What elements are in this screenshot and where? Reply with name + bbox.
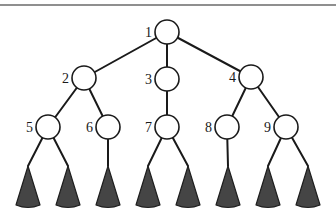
tree-diagram: 123456789	[0, 0, 336, 221]
node-circle	[155, 67, 179, 91]
edges	[28, 32, 308, 166]
node-label: 3	[145, 72, 152, 87]
tree-node-7: 7	[145, 115, 179, 139]
node-circle	[155, 115, 179, 139]
edge-1-2	[84, 32, 167, 78]
node-label: 2	[62, 71, 69, 86]
node-circle	[36, 115, 60, 139]
subtree-triangle	[96, 166, 120, 208]
subtree-triangle	[256, 166, 280, 208]
subtree-triangle	[56, 166, 80, 208]
tree-node-3: 3	[145, 67, 179, 91]
tree-node-9: 9	[264, 115, 298, 139]
node-label: 8	[205, 120, 212, 135]
node-circle	[72, 66, 96, 90]
node-circle	[215, 115, 239, 139]
node-label: 4	[229, 70, 236, 85]
subtree-triangle	[296, 166, 320, 208]
tree-node-8: 8	[205, 115, 239, 139]
subtree-triangle	[216, 166, 240, 208]
edge-1-4	[167, 32, 251, 77]
node-circle	[96, 115, 120, 139]
tree-node-5: 5	[26, 115, 60, 139]
node-circle	[274, 115, 298, 139]
subtree-triangle	[16, 166, 40, 208]
subtree-triangle	[136, 166, 160, 208]
node-label: 1	[145, 25, 152, 40]
node-label: 9	[264, 120, 271, 135]
nodes: 123456789	[26, 20, 298, 139]
node-circle	[239, 65, 263, 89]
subtree-triangle	[176, 166, 200, 208]
node-label: 6	[86, 120, 93, 135]
node-label: 7	[145, 120, 152, 135]
node-label: 5	[26, 120, 33, 135]
tree-node-6: 6	[86, 115, 120, 139]
subtrees	[16, 166, 320, 208]
tree-node-2: 2	[62, 66, 96, 90]
node-circle	[155, 20, 179, 44]
